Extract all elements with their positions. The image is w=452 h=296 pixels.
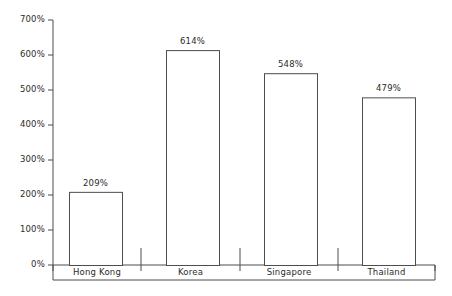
y-axis-tick-label: 400% — [20, 119, 45, 129]
y-axis-ticks — [48, 20, 53, 265]
bar — [167, 51, 220, 266]
y-axis-tick-label: 500% — [20, 84, 45, 94]
bar-value-label: 614% — [151, 36, 234, 46]
bar — [70, 192, 123, 265]
y-axis-tick-label: 600% — [20, 49, 45, 59]
y-axis-tick-label: 700% — [20, 14, 45, 24]
category-label-korea: Korea — [141, 267, 240, 277]
bar — [265, 74, 318, 266]
category-label-thailand: Thailand — [338, 267, 435, 277]
y-axis-tick-label: 100% — [20, 224, 45, 234]
category-label-hong-kong: Hong Kong — [53, 267, 141, 277]
bar — [363, 98, 416, 266]
bar-chart: 0%100%200%300%400%500%600%700% 209%614%5… — [0, 0, 452, 296]
y-axis-tick-label: 0% — [31, 259, 45, 269]
y-axis-tick-label: 300% — [20, 154, 45, 164]
y-axis-tick-label: 200% — [20, 189, 45, 199]
bar-value-label: 209% — [54, 178, 137, 188]
bar-value-label: 548% — [249, 59, 332, 69]
bar-value-label: 479% — [347, 83, 430, 93]
category-label-singapore: Singapore — [240, 267, 338, 277]
